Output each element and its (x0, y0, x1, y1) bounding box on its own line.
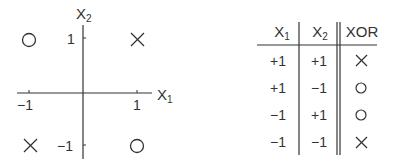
xor-table: X1 X2 XOR +1 +1 +1 −1 −1 +1 −1 −1 (0, 0, 396, 167)
table-xor-markers (0, 0, 396, 167)
cross-icon (356, 55, 367, 66)
circle-icon (356, 110, 366, 120)
cross-icon (356, 137, 367, 148)
circle-icon (356, 83, 366, 93)
